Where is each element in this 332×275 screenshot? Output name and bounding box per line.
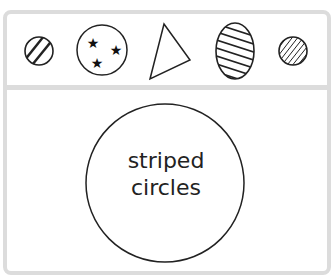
label-line-2: circles <box>116 174 216 201</box>
sorting-circle-label: striped circles <box>116 147 216 201</box>
svg-text:★: ★ <box>87 35 100 51</box>
striped-circle-icon[interactable] <box>14 32 54 70</box>
svg-text:★: ★ <box>91 55 104 71</box>
triangle-icon[interactable] <box>150 24 190 79</box>
svg-text:★: ★ <box>110 42 123 58</box>
star-circle-icon[interactable]: ★ ★ ★ <box>77 25 127 75</box>
striped-oval-icon[interactable] <box>210 22 260 86</box>
label-line-1: striped <box>116 147 216 174</box>
dense-striped-circle-icon[interactable] <box>269 30 314 75</box>
